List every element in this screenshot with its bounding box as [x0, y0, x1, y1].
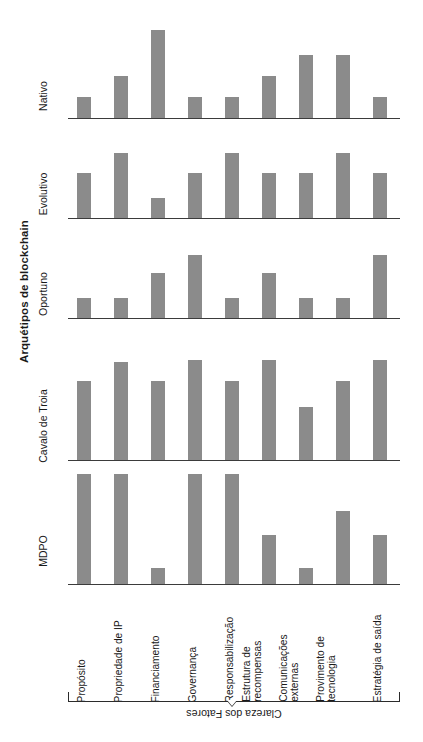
bar — [114, 362, 128, 460]
panel-baseline — [68, 460, 400, 461]
bar — [225, 298, 239, 318]
bar-group — [68, 26, 400, 118]
bar — [299, 173, 313, 218]
bar — [336, 381, 350, 460]
bar — [225, 381, 239, 460]
bar-group — [68, 124, 400, 218]
panel-evolutivo — [68, 124, 400, 218]
bar — [299, 298, 313, 318]
bar — [299, 407, 313, 460]
bar — [188, 360, 202, 460]
panel-baseline — [68, 118, 400, 119]
bar-group — [68, 346, 400, 460]
bracket-tick-right — [399, 692, 400, 702]
bar — [151, 273, 165, 318]
bar — [151, 198, 165, 218]
panel-baseline — [68, 218, 400, 219]
bar — [373, 360, 387, 460]
panel-label-mdpo: MDPO — [37, 506, 49, 596]
bar — [299, 568, 313, 585]
bar — [151, 30, 165, 118]
bar — [77, 97, 91, 118]
bar — [373, 535, 387, 585]
bar — [114, 76, 128, 118]
panel-nativo — [68, 26, 400, 118]
category-label-group: PropósitoPropriedade de IPFinanciamentoG… — [68, 590, 400, 702]
bar — [225, 153, 239, 218]
bar — [77, 173, 91, 218]
bar — [188, 474, 202, 584]
panel-label-evolutivo: Evolutivo — [37, 149, 49, 239]
panel-oportuno — [68, 224, 400, 318]
bracket-notch-inner — [227, 700, 237, 706]
panel-baseline — [68, 318, 400, 319]
bar — [262, 76, 276, 118]
bar — [225, 474, 239, 584]
bar — [336, 298, 350, 318]
bar — [77, 474, 91, 584]
bar — [336, 511, 350, 584]
panel-mdpo — [68, 470, 400, 584]
bar-group — [68, 470, 400, 584]
bar — [188, 97, 202, 118]
category-bracket — [68, 690, 400, 704]
panel-label-oportuno: Oportuno — [37, 249, 49, 339]
bar-group — [68, 224, 400, 318]
bar — [373, 255, 387, 318]
bar — [77, 381, 91, 460]
panel-label-cavalo-de-troia: Cavalo de Troia — [37, 381, 49, 471]
bar — [225, 97, 239, 118]
panel-baseline — [68, 584, 400, 585]
x-axis-title: Clareza dos Fatores — [68, 708, 400, 720]
bracket-tick-left — [68, 692, 69, 702]
bar — [114, 298, 128, 318]
bar — [77, 298, 91, 318]
bar — [114, 153, 128, 218]
bar — [262, 273, 276, 318]
category-label: Estratégia de saída — [372, 614, 383, 702]
bar — [336, 55, 350, 118]
bar — [299, 55, 313, 118]
bar — [262, 173, 276, 218]
bar — [188, 173, 202, 218]
chart-figure: Arquétipos de blockchain PropósitoPropri… — [0, 0, 423, 742]
bar — [188, 255, 202, 318]
panel-label-nativo: Nativo — [37, 51, 49, 141]
bar — [373, 173, 387, 218]
bar — [373, 97, 387, 118]
bar — [262, 535, 276, 585]
bar — [336, 153, 350, 218]
bar — [262, 360, 276, 460]
bar — [151, 381, 165, 460]
y-axis-title: Arquétipos de blockchain — [18, 223, 30, 363]
bar — [114, 474, 128, 584]
panel-cavalo-de-troia — [68, 346, 400, 460]
bar — [151, 568, 165, 585]
category-label-line: Estratégia de saída — [372, 614, 383, 702]
